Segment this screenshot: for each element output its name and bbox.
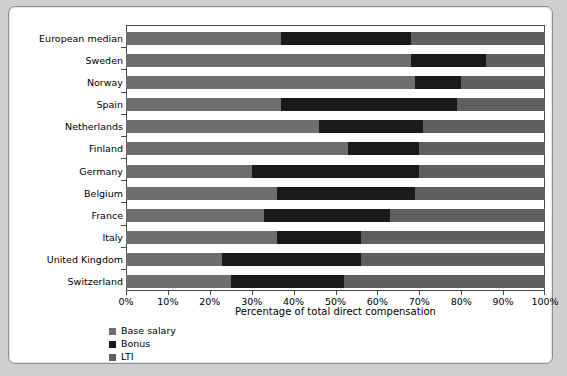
x-axis-tick (168, 291, 169, 295)
bar-segment-bonus (264, 209, 390, 222)
y-axis-tick (121, 92, 126, 93)
bar-segment-base-salary (126, 187, 277, 200)
bar-row (126, 209, 545, 222)
bar-segment-lti (390, 209, 545, 222)
bar-row (126, 98, 545, 111)
x-axis-tick (461, 291, 462, 295)
bar-segment-lti (344, 275, 545, 288)
legend-label: LTI (121, 351, 134, 363)
bar-segment-bonus (348, 142, 419, 155)
bar-segment-base-salary (126, 76, 415, 89)
bar-row (126, 253, 545, 266)
bar-row (126, 120, 545, 133)
bar-segment-lti (361, 253, 545, 266)
y-axis-tick-label: United Kingdom (11, 253, 123, 266)
y-axis-tick-label: Sweden (11, 54, 123, 67)
y-axis-tick (121, 225, 126, 226)
x-axis-tick (252, 291, 253, 295)
y-axis-tick-label: France (11, 209, 123, 222)
x-axis-tick (336, 291, 337, 295)
bar-segment-lti (361, 231, 545, 244)
bar-segment-base-salary (126, 98, 281, 111)
bar-segment-base-salary (126, 54, 411, 67)
x-axis-tick (210, 291, 211, 295)
bar-row (126, 275, 545, 288)
bar-segment-base-salary (126, 253, 222, 266)
x-axis-tick (419, 291, 420, 295)
y-axis-tick (121, 69, 126, 70)
legend-item: Base salary (109, 325, 176, 337)
x-axis-tick (544, 291, 545, 295)
y-axis-tick-label: European median (11, 32, 123, 45)
bar-segment-base-salary (126, 275, 231, 288)
y-axis-tick-label: Norway (11, 76, 123, 89)
bar-segment-bonus (222, 253, 360, 266)
bar-row (126, 187, 545, 200)
bar-segment-bonus (231, 275, 344, 288)
legend-label: Base salary (121, 325, 176, 337)
x-axis-tick (126, 291, 127, 295)
bar-row (126, 54, 545, 67)
bar-segment-bonus (319, 120, 424, 133)
bar-segment-lti (486, 54, 545, 67)
y-axis-tick-label: Italy (11, 231, 123, 244)
y-axis-tick-label: Germany (11, 165, 123, 178)
legend-item: LTI (109, 351, 176, 363)
y-axis-tick (121, 114, 126, 115)
y-axis-tick (121, 202, 126, 203)
bar-segment-lti (411, 32, 545, 45)
bar-segment-base-salary (126, 32, 281, 45)
scanned-page: European medianSwedenNorwaySpainNetherla… (0, 0, 567, 376)
figure-frame: European medianSwedenNorwaySpainNetherla… (8, 6, 553, 364)
bar-segment-base-salary (126, 209, 264, 222)
bar-segment-lti (457, 98, 545, 111)
y-axis-tick-label: Spain (11, 98, 123, 111)
y-axis-tick (121, 247, 126, 248)
bar-row (126, 165, 545, 178)
bar-segment-base-salary (126, 120, 319, 133)
y-axis-tick (121, 269, 126, 270)
x-axis-title: Percentage of total direct compensation (126, 306, 545, 317)
y-axis-tick (121, 180, 126, 181)
bar-row (126, 32, 545, 45)
bar-row (126, 142, 545, 155)
legend: Base salaryBonusLTI (109, 325, 176, 364)
bar-segment-bonus (277, 231, 361, 244)
bar-segment-lti (419, 165, 545, 178)
bar-segment-base-salary (126, 165, 252, 178)
bar-row (126, 231, 545, 244)
x-axis-tick (294, 291, 295, 295)
x-axis-tick (503, 291, 504, 295)
bar-segment-lti (419, 142, 545, 155)
legend-label: Bonus (121, 338, 150, 350)
legend-swatch-icon (109, 328, 116, 335)
bar-segment-bonus (281, 98, 457, 111)
bar-segment-lti (423, 120, 545, 133)
y-axis-tick-label: Netherlands (11, 120, 123, 133)
y-axis-tick (121, 158, 126, 159)
bar-segment-base-salary (126, 231, 277, 244)
bar-row (126, 76, 545, 89)
legend-item: Bonus (109, 338, 176, 350)
y-axis-labels: European medianSwedenNorwaySpainNetherla… (9, 25, 123, 291)
bar-segment-bonus (415, 76, 461, 89)
y-axis-tick-label: Finland (11, 142, 123, 155)
y-axis-tick-label: Belgium (11, 187, 123, 200)
bar-segment-lti (415, 187, 545, 200)
bar-series-container (126, 25, 545, 291)
bar-segment-bonus (252, 165, 420, 178)
y-axis-tick (121, 47, 126, 48)
bar-segment-bonus (277, 187, 415, 200)
bar-segment-bonus (281, 32, 411, 45)
legend-swatch-icon (109, 354, 116, 361)
bar-segment-base-salary (126, 142, 348, 155)
y-axis-tick (121, 136, 126, 137)
x-axis-tick (377, 291, 378, 295)
legend-swatch-icon (109, 341, 116, 348)
y-axis-tick-label: Switzerland (11, 275, 123, 288)
bar-segment-bonus (411, 54, 486, 67)
bar-segment-lti (461, 76, 545, 89)
